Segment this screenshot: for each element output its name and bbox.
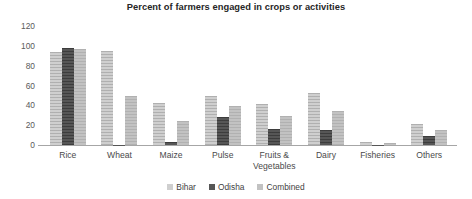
y-axis-tick-80: 80 xyxy=(1,62,35,70)
chart-title: Percent of farmers engaged in crops or a… xyxy=(0,2,472,12)
x-axis-label: Rice xyxy=(42,150,94,161)
bar-chart: Percent of farmers engaged in crops or a… xyxy=(0,0,472,199)
x-axis-label: Maize xyxy=(145,150,197,161)
bar-group-bars xyxy=(197,26,249,145)
bar-group xyxy=(300,26,352,145)
bar-bihar-fruitsvegetables xyxy=(256,104,268,145)
bar-combined-pulse xyxy=(229,106,241,145)
legend-swatch-icon xyxy=(209,184,215,190)
bar-group xyxy=(197,26,249,145)
x-axis-label: Pulse xyxy=(197,150,249,161)
bar-group xyxy=(403,26,455,145)
x-axis-label: Fisheries xyxy=(352,150,404,161)
legend-item-combined[interactable]: Combined xyxy=(257,182,304,192)
legend-item-bihar[interactable]: Bihar xyxy=(167,182,196,192)
bar-group-bars xyxy=(145,26,197,145)
legend-label: Odisha xyxy=(218,182,245,192)
bar-bihar-rice xyxy=(50,52,62,145)
x-axis-label: Wheat xyxy=(94,150,146,161)
y-axis-tick-0: 0 xyxy=(1,141,35,149)
bar-group xyxy=(145,26,197,145)
bar-bihar-wheat xyxy=(101,51,113,145)
bar-group-bars xyxy=(94,26,146,145)
bar-bihar-dairy xyxy=(308,93,320,145)
x-axis-label: Fruits & Vegetables xyxy=(249,150,301,171)
x-axis-label: Dairy xyxy=(300,150,352,161)
bar-bihar-pulse xyxy=(205,96,217,145)
plot-area xyxy=(42,26,455,145)
bar-group-bars xyxy=(352,26,404,145)
bar-bihar-others xyxy=(411,124,423,145)
bar-odisha-fruitsvegetables xyxy=(268,129,280,145)
legend-swatch-icon xyxy=(257,184,263,190)
y-axis: 020406080100120 xyxy=(0,0,40,199)
bar-odisha-maize xyxy=(165,142,177,145)
y-axis-tick-40: 40 xyxy=(1,101,35,109)
bar-group xyxy=(249,26,301,145)
bar-group xyxy=(94,26,146,145)
y-axis-tick-20: 20 xyxy=(1,121,35,129)
bar-odisha-dairy xyxy=(320,130,332,145)
bar-combined-others xyxy=(435,130,447,145)
x-axis-label: Others xyxy=(403,150,455,161)
y-axis-tick-100: 100 xyxy=(1,42,35,50)
bar-group xyxy=(42,26,94,145)
bar-group-bars xyxy=(300,26,352,145)
bar-combined-maize xyxy=(177,121,189,145)
bar-combined-rice xyxy=(74,49,86,145)
bar-group-bars xyxy=(403,26,455,145)
bar-odisha-pulse xyxy=(217,117,229,145)
bar-group xyxy=(352,26,404,145)
bar-combined-dairy xyxy=(332,111,344,145)
legend-item-odisha[interactable]: Odisha xyxy=(209,182,245,192)
legend-label: Combined xyxy=(266,182,304,192)
legend-label: Bihar xyxy=(176,182,196,192)
y-axis-tick-120: 120 xyxy=(1,22,35,30)
x-axis-line xyxy=(38,145,457,146)
bar-group-bars xyxy=(42,26,94,145)
bar-odisha-rice xyxy=(62,48,74,145)
bar-combined-fruitsvegetables xyxy=(280,116,292,145)
bar-odisha-others xyxy=(423,136,435,145)
legend-swatch-icon xyxy=(167,184,173,190)
y-axis-tick-60: 60 xyxy=(1,82,35,90)
bar-bihar-fisheries xyxy=(360,142,372,145)
bar-combined-wheat xyxy=(125,96,137,145)
bar-combined-fisheries xyxy=(384,143,396,145)
chart-legend: BiharOdishaCombined xyxy=(0,182,472,192)
bar-group-bars xyxy=(249,26,301,145)
bar-bihar-maize xyxy=(153,103,165,145)
